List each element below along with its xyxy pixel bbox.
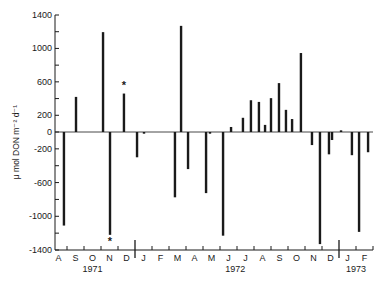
month-label: F — [158, 253, 164, 263]
asterisk-marker: * — [122, 79, 127, 91]
don-flux-chart: 140010006002000-200-600-1000-1400 ASONDJ… — [0, 0, 385, 281]
data-bar — [291, 119, 293, 132]
data-bar — [340, 130, 342, 132]
data-bar — [242, 118, 244, 132]
data-bar — [351, 132, 353, 155]
month-label: O — [89, 253, 96, 263]
data-bar — [174, 132, 176, 197]
data-bar — [205, 132, 207, 193]
data-bar — [209, 132, 211, 134]
data-bar — [264, 125, 266, 132]
data-bar — [311, 132, 313, 145]
y-tick-label: -600 — [34, 178, 52, 188]
data-bar — [278, 83, 280, 132]
year-label: 1972 — [225, 264, 245, 274]
data-bar — [143, 132, 145, 134]
month-label: D — [123, 253, 130, 263]
month-label: A — [191, 253, 197, 263]
month-label: J — [226, 253, 231, 263]
month-label: A — [55, 253, 61, 263]
data-bar — [328, 132, 330, 154]
month-label: N — [106, 253, 113, 263]
x-axis: ASONDJFMAMJJASONDJF197119721973 — [55, 240, 373, 274]
data-bar — [319, 132, 321, 244]
month-label: S — [72, 253, 78, 263]
y-tick-label: 0 — [47, 127, 52, 137]
month-label: N — [310, 253, 317, 263]
y-tick-label: 200 — [37, 110, 52, 120]
y-tick-label: -200 — [34, 144, 52, 154]
y-tick-label: 1400 — [32, 10, 52, 20]
month-label: J — [345, 253, 350, 263]
data-bar — [123, 94, 125, 132]
month-label: M — [208, 253, 216, 263]
data-bar — [222, 132, 224, 236]
data-bar — [367, 132, 369, 152]
data-bar — [63, 132, 65, 226]
data-bar — [75, 97, 77, 132]
month-label: F — [362, 253, 368, 263]
y-tick-label: -1400 — [29, 245, 52, 255]
data-bar — [358, 132, 360, 232]
data-bar — [300, 53, 302, 132]
year-label: 1973 — [346, 264, 366, 274]
month-label: D — [327, 253, 334, 263]
y-tick-label: 600 — [37, 77, 52, 87]
month-label: J — [243, 253, 248, 263]
data-bar — [285, 110, 287, 132]
month-label: M — [174, 253, 182, 263]
chart-canvas: 140010006002000-200-600-1000-1400 ASONDJ… — [0, 0, 385, 281]
y-tick-label: -1000 — [29, 211, 52, 221]
data-bar — [187, 132, 189, 169]
month-label: J — [141, 253, 146, 263]
data-bar — [180, 26, 182, 132]
data-bar — [230, 127, 232, 132]
asterisk-marker: * — [108, 235, 113, 247]
data-bar — [270, 98, 272, 132]
y-axis-label: μ mol DON m⁻² d⁻¹ — [11, 105, 21, 180]
data-bar — [136, 132, 138, 157]
month-label: A — [259, 253, 265, 263]
data-bar — [102, 32, 104, 132]
month-label: O — [293, 253, 300, 263]
y-axis: 140010006002000-200-600-1000-1400 — [29, 10, 373, 255]
data-bar — [109, 132, 111, 235]
year-label: 1971 — [82, 264, 102, 274]
month-label: S — [276, 253, 282, 263]
data-bar — [250, 100, 252, 132]
bar-series — [63, 26, 370, 244]
data-bar — [258, 102, 260, 132]
y-tick-label: 1000 — [32, 43, 52, 53]
data-bar — [331, 132, 333, 140]
